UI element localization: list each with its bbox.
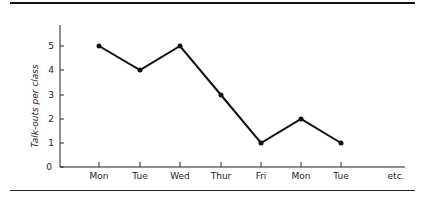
svg-text:etc.: etc. — [388, 171, 405, 181]
svg-text:Thur: Thur — [210, 171, 232, 181]
bottom-rule — [10, 190, 415, 191]
data-points — [97, 44, 344, 146]
svg-text:2: 2 — [48, 114, 54, 124]
y-tick-labels: 0 1 2 3 4 5 — [46, 41, 54, 172]
svg-text:1: 1 — [48, 138, 54, 148]
svg-text:4: 4 — [48, 65, 54, 75]
svg-text:Fri: Fri — [256, 171, 267, 181]
x-ticks — [99, 162, 341, 167]
y-axis-label: Talk-outs per class — [30, 64, 40, 148]
svg-text:Tue: Tue — [332, 171, 349, 181]
x-tick-labels: Mon Tue Wed Thur Fri Mon Tue etc. — [90, 171, 405, 181]
svg-text:Tue: Tue — [131, 171, 148, 181]
svg-text:Mon: Mon — [292, 171, 311, 181]
svg-text:0: 0 — [46, 162, 52, 172]
svg-text:5: 5 — [48, 41, 54, 51]
svg-text:Mon: Mon — [90, 171, 109, 181]
svg-text:Wed: Wed — [170, 171, 190, 181]
svg-text:3: 3 — [48, 90, 54, 100]
line-chart: 0 1 2 3 4 5 Talk-outs per class Mon Tue … — [0, 0, 423, 198]
y-ticks — [60, 46, 64, 167]
